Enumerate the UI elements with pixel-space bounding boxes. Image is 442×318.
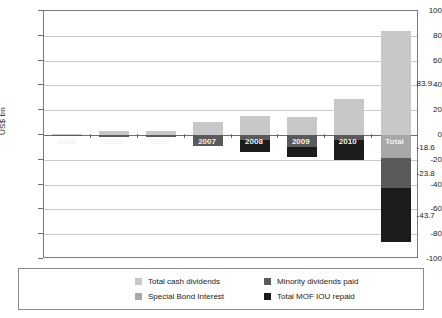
legend-row: Total cash dividends Minority dividends … [19,274,423,289]
x-axis-label: 2008 [245,137,263,146]
legend-label: Total cash dividends [148,277,220,286]
legend-swatch-icon [264,293,271,300]
bar-segment [381,188,411,242]
bar-group [52,11,82,257]
bar-value-label: -23.8 [417,168,435,177]
legend-swatch-icon [135,278,142,285]
chart-legend: Total cash dividends Minority dividends … [18,268,424,310]
legend-swatch-icon [135,293,142,300]
bar-value-label: -18.6 [417,142,435,151]
legend-item-minority-dividends-paid: Minority dividends paid [264,277,414,286]
bar-value-label: 83.9 [417,78,433,87]
legend-item-total-cash-dividends: Total cash dividends [135,277,255,286]
y-axis-tick-mark [38,258,43,259]
x-axis-label: 2010 [339,137,357,146]
legend-item-total-mof-iou-repaid: Total MOF IOU repaid [264,292,414,301]
bar-group [381,11,411,257]
bar-group [193,11,223,257]
bar-group [334,11,364,257]
legend-row: Special Bond Interest Total MOF IOU repa… [19,289,423,304]
x-axis-tick-mark [90,134,91,138]
bar-segment [334,99,364,135]
legend-item-special-bond-interest: Special Bond Interest [135,292,255,301]
x-axis-label: Total [385,137,404,146]
x-axis-label: 2009 [292,137,310,146]
bar-group [287,11,317,257]
chart-root: US$ bn 100806040200-20-40-60-80-100 83.9… [0,0,442,318]
bar-group [146,11,176,257]
bar-group [240,11,270,257]
bar-segment [193,122,223,135]
bar-segment [287,147,317,158]
x-axis-label: 2004 [58,137,76,146]
bar-segment [240,116,270,135]
x-axis-tick-mark [371,134,372,138]
x-axis-label: 2005 [104,137,122,146]
bar-segment [287,117,317,135]
x-axis-tick-mark [137,134,138,138]
x-axis-label: 2007 [198,137,216,146]
x-axis-tick-mark [277,134,278,138]
y-axis-title: US$ bn [0,75,7,135]
legend-swatch-icon [264,278,271,285]
legend-label: Minority dividends paid [277,277,358,286]
legend-label: Special Bond Interest [148,292,224,301]
x-axis-tick-mark [184,134,185,138]
bar-value-label: -43.7 [417,210,435,219]
bar-group [99,11,129,257]
legend-label: Total MOF IOU repaid [277,292,355,301]
bar-segment [52,135,82,136]
bar-segment [381,31,411,135]
bar-segment [381,158,411,188]
x-axis-tick-mark [231,134,232,138]
x-axis-tick-mark [324,134,325,138]
x-axis-label: 2006 [151,137,169,146]
